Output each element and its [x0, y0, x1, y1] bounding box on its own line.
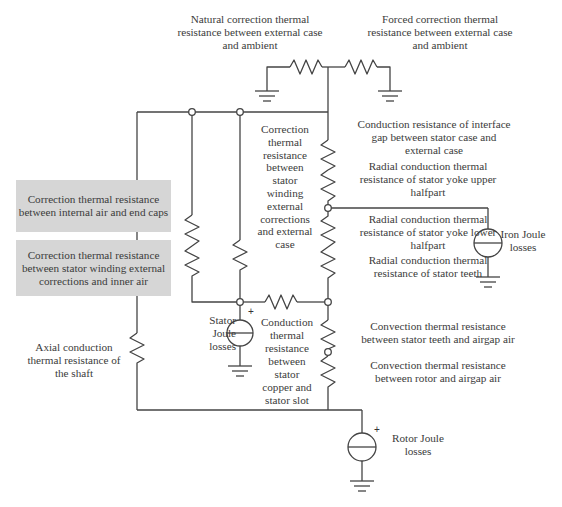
- node-yoke-mid: [325, 205, 332, 212]
- interface-gap-resistor: [321, 140, 335, 170]
- stator-joule-label: Stator Joule losses: [196, 314, 236, 353]
- thermal-circuit-diagram: Correction thermal resistance between in…: [0, 0, 562, 507]
- node-mid-240: [237, 299, 244, 306]
- shaft-label: Axial conduction thermal resistance of t…: [18, 341, 130, 380]
- stator-joule-plus-icon: +: [248, 306, 254, 317]
- yoke-upper-label: Radial conduction thermal resistance of …: [338, 160, 518, 199]
- rotor-joule-plus-icon: +: [374, 424, 380, 435]
- ground-icon-rotor: [350, 481, 374, 491]
- end-caps-resistor: [185, 215, 199, 246]
- ground-icon-left: [255, 91, 279, 101]
- end-caps-label-box: Correction thermal resistance between in…: [16, 180, 171, 232]
- middle-bus: [243, 295, 325, 309]
- node-mid-328: [325, 299, 332, 306]
- forced-correction-label: Forced correction thermal resistance bet…: [350, 13, 530, 52]
- node-top-192: [189, 109, 196, 116]
- inner-air-label-box: Correction thermal resistance between st…: [16, 240, 171, 296]
- yoke-lower-label: Radial conduction thermal resistance of …: [338, 213, 518, 252]
- teeth-airgap-resistor: [321, 320, 335, 349]
- stator-teeth-resistor: [321, 247, 335, 299]
- rotor-airgap-resistor: [321, 356, 335, 410]
- forced-correction-resistor: [345, 60, 377, 74]
- iron-joule-label: Iron Joule losses: [493, 228, 553, 254]
- rotor-joule-label: Rotor Joule losses: [383, 432, 453, 458]
- winding-external-case-label: Correction thermal resistance between st…: [249, 123, 321, 251]
- teeth-airgap-label: Convection thermal resistance between st…: [338, 320, 538, 346]
- winding-external-case-resistor: [233, 240, 247, 299]
- copper-slot-label: Conduction thermal resistance between st…: [252, 316, 322, 407]
- rotor-airgap-label: Convection thermal resistance between ro…: [338, 359, 538, 385]
- natural-correction-label: Natural correction thermal resistance be…: [160, 13, 340, 52]
- stator-teeth-label: Radial conduction thermal resistance of …: [338, 254, 518, 280]
- interface-gap-label: Conduction resistance of interface gap b…: [334, 118, 534, 157]
- node-top-240: [237, 109, 244, 116]
- ground-icon-stator: [228, 366, 252, 376]
- natural-correction-resistor: [290, 60, 322, 74]
- node-airgap: [325, 349, 332, 356]
- ground-icon-right: [378, 91, 402, 101]
- shaft-resistor: [130, 333, 144, 410]
- rotor-bus: [137, 410, 376, 491]
- stator-main-branch: [321, 67, 335, 410]
- yoke-upper-resistor: [321, 170, 335, 205]
- copper-slot-resistor: [265, 295, 297, 309]
- yoke-lower-resistor: [321, 211, 335, 247]
